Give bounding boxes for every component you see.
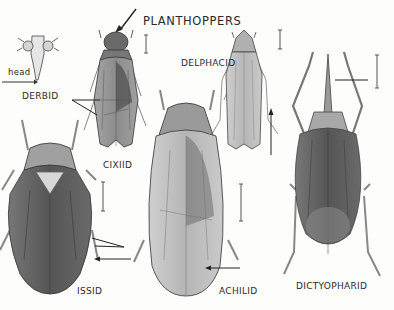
cixiid-illustration xyxy=(84,30,146,147)
issid-label: ISSID xyxy=(77,286,102,296)
head-label: head xyxy=(8,67,30,77)
cixiid-label: CIXIID xyxy=(103,160,132,170)
title-arrow-line xyxy=(120,9,136,30)
achilid-label: ACHILID xyxy=(219,286,257,296)
figure-title: PLANTHOPPERS xyxy=(143,14,241,28)
issid-illustration xyxy=(0,120,98,294)
cixiid-pointer-2 xyxy=(72,100,97,115)
dictyopharid-label: DICTYOPHARID xyxy=(296,281,367,291)
delphacid-illustration xyxy=(212,30,278,149)
achilid-illustration xyxy=(134,90,238,296)
planthoppers-plate: PLANTHOPPERS head DERBID CIXIID DELPHACI… xyxy=(0,0,394,310)
dictyopharid-illustration xyxy=(284,52,380,276)
delphacid-label: DELPHACID xyxy=(181,58,235,68)
illustration-layer xyxy=(0,0,394,310)
derbid-label: DERBID xyxy=(22,91,58,101)
